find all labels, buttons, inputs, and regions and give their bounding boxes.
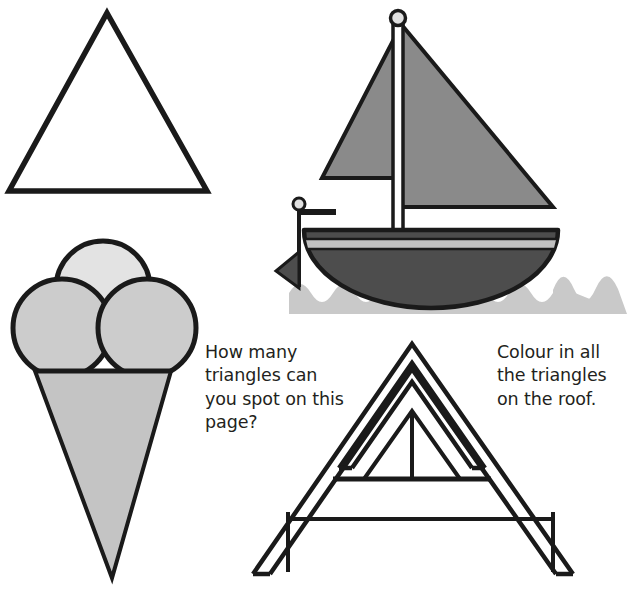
sailboat: [276, 11, 627, 315]
water-waves-right: [553, 276, 627, 314]
count-question-text: How many triangles can you spot on this …: [205, 341, 350, 434]
sailboat-pennant-flag: [276, 252, 299, 288]
sailboat-mast: [393, 22, 403, 234]
ice-cream-scoop-right: [98, 279, 196, 377]
sailboat-mast-finial: [391, 11, 406, 26]
plain-triangle: [9, 13, 207, 191]
sailboat-jib-sail: [322, 35, 396, 178]
colour-instruction-text: Colour in all the triangles on the roof.: [497, 341, 627, 411]
sailboat-flag-pole-finial: [293, 198, 305, 210]
worksheet-page: How many triangles can you spot on this …: [0, 0, 627, 591]
plain-triangle-shape: [9, 13, 207, 191]
ice-cream-cone: [13, 241, 196, 578]
sailboat-hull-stripe: [306, 240, 556, 248]
sailboat-mainsail: [401, 24, 553, 207]
worksheet-artwork: [0, 0, 627, 591]
ice-cream-cone-triangle: [35, 371, 171, 578]
